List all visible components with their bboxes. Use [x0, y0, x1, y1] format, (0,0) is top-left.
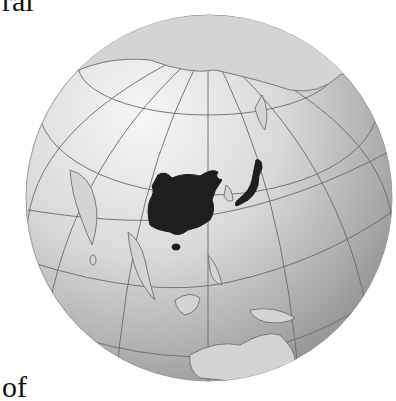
highlight-hainan: [172, 244, 180, 250]
land-sri-lanka: [90, 255, 96, 265]
